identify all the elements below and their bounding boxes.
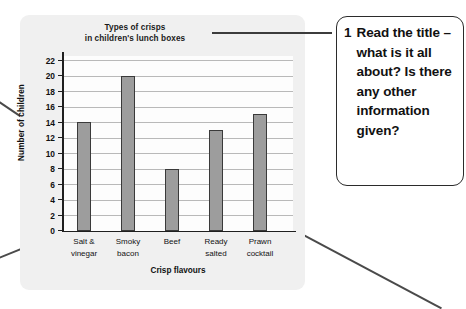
bar-ready-salted (209, 130, 223, 231)
chart-title-line-2: in children's lunch boxes (20, 33, 250, 44)
bar-smoky-bacon (121, 76, 135, 231)
callout-content: 1 Read the title – what is it all about?… (344, 23, 462, 140)
y-tick (58, 184, 63, 185)
bar-beef (165, 169, 179, 231)
y-tick-label: 20 (35, 71, 55, 81)
gridline (63, 91, 293, 92)
y-tick-label: 18 (35, 87, 55, 97)
y-tick (58, 60, 63, 61)
y-tick-label: 8 (35, 164, 55, 174)
y-tick (58, 75, 63, 76)
y-tick-label: 12 (35, 133, 55, 143)
y-tick-label: 10 (35, 149, 55, 159)
category-line-2: bacon (99, 248, 157, 260)
y-axis-title: Number of children (17, 68, 26, 178)
x-axis-line (62, 231, 296, 233)
y-tick-label: 2 (35, 211, 55, 221)
y-tick (58, 91, 63, 92)
y-tick (58, 199, 63, 200)
gridline (63, 60, 293, 61)
y-tick (58, 106, 63, 107)
y-tick (58, 168, 63, 169)
y-tick-label: 16 (35, 102, 55, 112)
y-tick (58, 230, 63, 231)
category-line-1: Prawn (231, 236, 289, 248)
y-tick (58, 137, 63, 138)
x-category-label-prawn-cocktail: Prawn cocktail (231, 236, 289, 259)
y-tick (58, 215, 63, 216)
leader-line-bottom-right (282, 223, 442, 309)
callout-box-1: 1 Read the title – what is it all about?… (336, 16, 464, 186)
category-line-2: cocktail (231, 248, 289, 260)
callout-text: Read the title – what is it all about? I… (357, 23, 457, 140)
gridline (63, 107, 293, 108)
y-tick-label: 22 (35, 56, 55, 66)
y-tick (58, 122, 63, 123)
y-tick-label: 6 (35, 180, 55, 190)
gridline (63, 76, 293, 77)
callout-number: 1 (344, 23, 352, 140)
bar-prawn-cocktail (253, 114, 267, 231)
x-axis-title: Crisp flavours (63, 266, 293, 275)
y-tick-label: 4 (35, 195, 55, 205)
bar-salt-vinegar (77, 122, 91, 231)
y-tick-label: 0 (35, 226, 55, 236)
y-axis-line (62, 52, 64, 232)
y-tick (58, 153, 63, 154)
y-tick-label: 14 (35, 118, 55, 128)
leader-line-title-to-callout (212, 32, 332, 34)
